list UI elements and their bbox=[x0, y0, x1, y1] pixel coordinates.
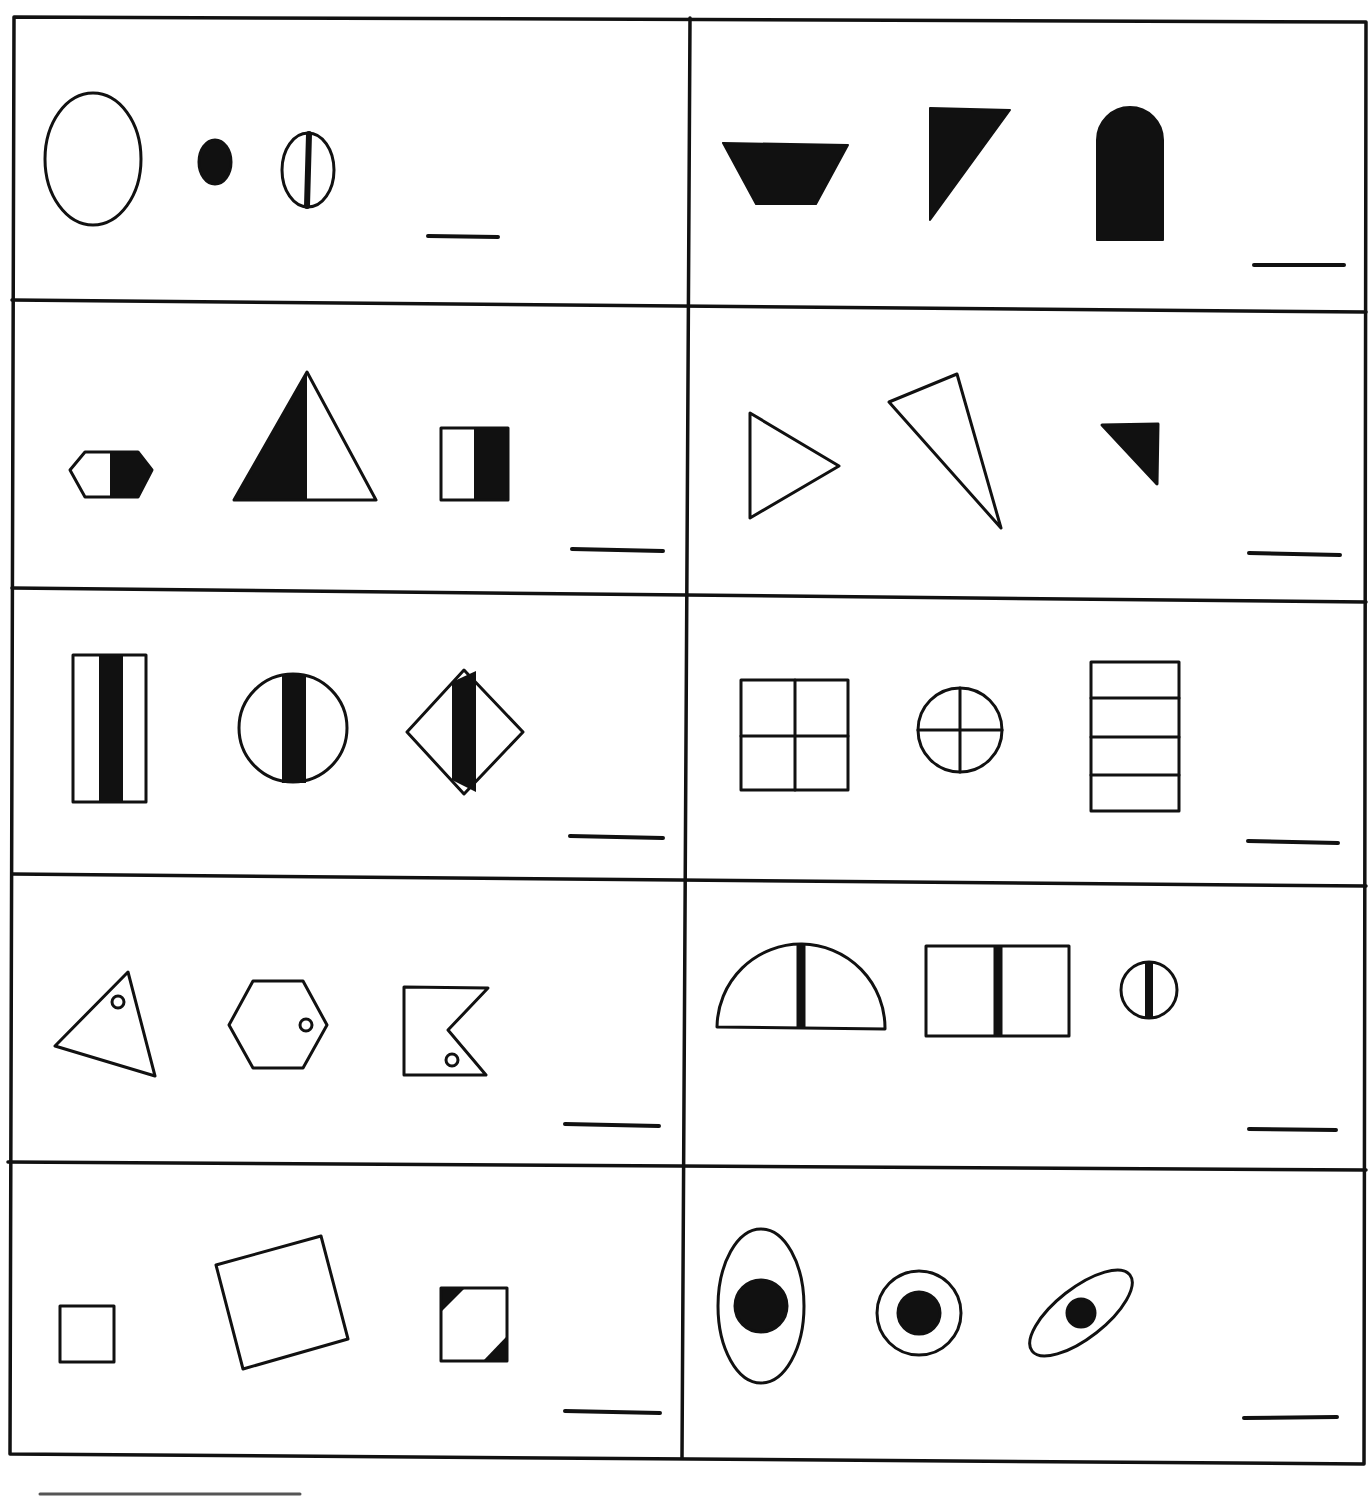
semicircle-with-center-bar-icon bbox=[717, 943, 885, 1029]
column-divider bbox=[682, 18, 690, 1458]
outline-thin-triangle-icon bbox=[889, 374, 1001, 528]
answer-blank-r3-right[interactable] bbox=[1248, 841, 1338, 843]
answer-blank-r3-left[interactable] bbox=[570, 836, 663, 838]
circle-with-center-bar-icon bbox=[239, 674, 347, 783]
answer-blank-r5-left[interactable] bbox=[565, 1411, 660, 1413]
square-with-filled-corners-icon bbox=[441, 1288, 507, 1361]
outline-right-pointing-triangle-icon bbox=[750, 413, 839, 518]
rectangle-with-horizontal-lines-icon bbox=[1091, 662, 1179, 811]
tall-ellipse-with-dot-icon bbox=[718, 1229, 804, 1383]
cell-r5-right bbox=[718, 1229, 1337, 1418]
half-filled-triangle-icon bbox=[234, 372, 376, 500]
shape-matching-worksheet bbox=[0, 0, 1368, 1496]
cell-r4-left bbox=[55, 972, 659, 1126]
large-tilted-square-icon bbox=[216, 1236, 348, 1369]
small-outline-square-icon bbox=[60, 1306, 114, 1362]
filled-inverted-trapezoid-icon bbox=[723, 143, 848, 204]
circle-with-dot-icon bbox=[877, 1271, 961, 1355]
cell-r1-right bbox=[723, 107, 1344, 265]
row-divider-4 bbox=[8, 1162, 1366, 1170]
diamond-with-center-bar-icon bbox=[407, 670, 523, 794]
cell-r3-left bbox=[73, 655, 663, 838]
cell-r2-left bbox=[70, 372, 663, 551]
row-divider-2 bbox=[12, 588, 1366, 602]
circle-with-cross-icon bbox=[918, 688, 1002, 772]
row-divider-3 bbox=[12, 874, 1366, 886]
cell-r2-right bbox=[750, 374, 1340, 555]
cell-r4-right bbox=[717, 943, 1336, 1130]
small-filled-circle-icon bbox=[199, 140, 231, 184]
cell-r3-right bbox=[741, 662, 1338, 843]
cell-r5-left bbox=[60, 1236, 660, 1413]
answer-blank-r2-left[interactable] bbox=[572, 549, 663, 551]
answer-blank-r2-right[interactable] bbox=[1249, 553, 1340, 555]
half-filled-square-icon bbox=[441, 428, 508, 500]
answer-blank-r4-left[interactable] bbox=[565, 1124, 659, 1126]
rectangle-with-center-bar-icon bbox=[73, 655, 146, 802]
answer-blank-r1-left[interactable] bbox=[428, 236, 498, 237]
rectangle-with-center-bar-icon bbox=[926, 946, 1069, 1036]
cell-r1-left bbox=[45, 93, 498, 237]
hexagon-with-small-circle-icon bbox=[229, 981, 327, 1068]
small-circle-with-center-bar-icon bbox=[1121, 962, 1177, 1018]
circle-with-vertical-bar-icon bbox=[282, 133, 334, 207]
answer-blank-r4-right[interactable] bbox=[1249, 1129, 1336, 1130]
square-divided-in-four-icon bbox=[741, 680, 848, 790]
triangle-with-small-circle-icon bbox=[55, 972, 155, 1076]
small-filled-triangle-icon bbox=[1102, 424, 1158, 484]
half-filled-hexagon-icon bbox=[70, 452, 152, 497]
tilted-ellipse-with-dot-icon bbox=[1017, 1255, 1145, 1371]
notched-flag-with-small-circle-icon bbox=[404, 987, 488, 1075]
filled-right-triangle-icon bbox=[930, 108, 1010, 220]
answer-blank-r5-right[interactable] bbox=[1244, 1417, 1337, 1418]
large-outline-circle-icon bbox=[45, 93, 141, 225]
filled-arch-icon bbox=[1097, 107, 1163, 240]
